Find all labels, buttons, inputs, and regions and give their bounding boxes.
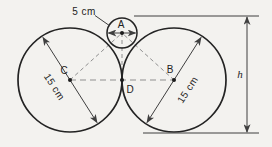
height-label: h: [237, 68, 243, 80]
circles-diagram-canvas: 5 cm A C B D 15 cm 15 cm h: [0, 0, 272, 147]
leader-line-5cm: [95, 16, 110, 27]
point-d-label: D: [126, 84, 133, 95]
labels: 5 cm A C B D 15 cm 15 cm h: [42, 6, 244, 105]
right-diameter-label: 15 cm: [175, 74, 200, 105]
point-b-label: B: [167, 64, 174, 75]
point-a-label: A: [118, 19, 125, 30]
point-d-dot: [120, 78, 124, 82]
dashed-line-C-A: [70, 33, 122, 80]
geometry-diagram: 5 cm A C B D 15 cm 15 cm h: [0, 0, 272, 147]
point-b-dot: [172, 78, 176, 82]
small-diameter-label: 5 cm: [72, 6, 96, 17]
point-a-dot: [120, 31, 124, 35]
point-c-label: C: [60, 65, 67, 76]
point-c-dot: [68, 78, 72, 82]
